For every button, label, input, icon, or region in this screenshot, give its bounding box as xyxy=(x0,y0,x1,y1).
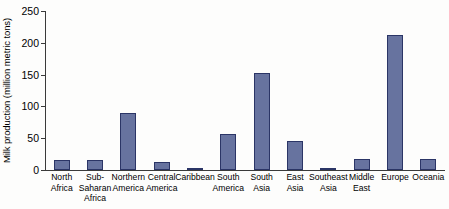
plot-area: 050100150200250 xyxy=(45,11,445,170)
y-tick-label: 150 xyxy=(21,69,39,81)
bar xyxy=(287,141,303,170)
bar xyxy=(120,113,136,170)
bar-slot xyxy=(412,11,445,170)
y-axis-title: Milk production (million metric tons) xyxy=(0,0,14,180)
bar xyxy=(320,168,336,170)
x-axis-label-line: America xyxy=(142,183,182,194)
y-tick-label: 250 xyxy=(21,5,39,17)
bar xyxy=(220,134,236,170)
bar-slot xyxy=(379,11,412,170)
bar xyxy=(87,160,103,170)
bar xyxy=(187,168,203,170)
bar xyxy=(387,35,403,170)
bar-slot xyxy=(212,11,245,170)
bar-slot xyxy=(112,11,145,170)
bar-slot xyxy=(245,11,278,170)
y-tick-label: 200 xyxy=(21,37,39,49)
y-tick-mark xyxy=(41,170,45,171)
bar-slot xyxy=(79,11,112,170)
bar-slot xyxy=(145,11,178,170)
bar xyxy=(254,73,270,170)
bar-slot xyxy=(45,11,78,170)
bar-slot xyxy=(279,11,312,170)
milk-production-bar-chart: Milk production (million metric tons) 05… xyxy=(0,0,449,209)
bar xyxy=(154,162,170,170)
y-tick-label: 50 xyxy=(27,132,39,144)
bars-layer xyxy=(45,11,445,170)
x-axis-label: Oceania xyxy=(408,172,448,183)
y-axis-title-label: Milk production (million metric tons) xyxy=(2,17,13,162)
x-axis-label-line: Africa xyxy=(75,193,115,204)
bar-slot xyxy=(345,11,378,170)
y-tick-label: 0 xyxy=(33,164,39,176)
bar-slot xyxy=(312,11,345,170)
bar xyxy=(54,160,70,170)
bar xyxy=(354,159,370,170)
x-axis-line xyxy=(45,170,445,171)
x-axis-label-line: East xyxy=(342,183,382,194)
bar xyxy=(420,159,436,170)
y-tick-label: 100 xyxy=(21,100,39,112)
x-axis-label-line: Oceania xyxy=(408,172,448,183)
bar-slot xyxy=(179,11,212,170)
x-axis-labels: NorthAfricaSub-SaharanAfricaNorthernAmer… xyxy=(45,172,445,209)
